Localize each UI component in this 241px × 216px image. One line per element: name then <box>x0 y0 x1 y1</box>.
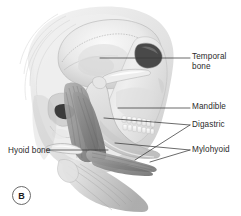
label-temporal-bone-line2: bone <box>192 62 226 72</box>
anatomy-figure-panel: Temporal bone Mandible Digastric Mylohyo… <box>0 0 241 216</box>
label-hyoid-bone: Hyoid bone <box>8 146 50 156</box>
label-mylohyoid-text: Mylohyoid <box>192 145 230 155</box>
label-temporal-bone-line1: Temporal <box>192 52 226 62</box>
label-hyoid-bone-text: Hyoid bone <box>8 146 50 156</box>
label-mylohyoid: Mylohyoid <box>192 145 230 155</box>
label-mandible: Mandible <box>192 102 226 112</box>
panel-letter-badge: B <box>12 186 31 205</box>
label-temporal-bone: Temporal bone <box>192 52 226 71</box>
label-digastric: Digastric <box>192 120 225 130</box>
label-digastric-text: Digastric <box>192 120 225 130</box>
label-mandible-text: Mandible <box>192 102 226 112</box>
